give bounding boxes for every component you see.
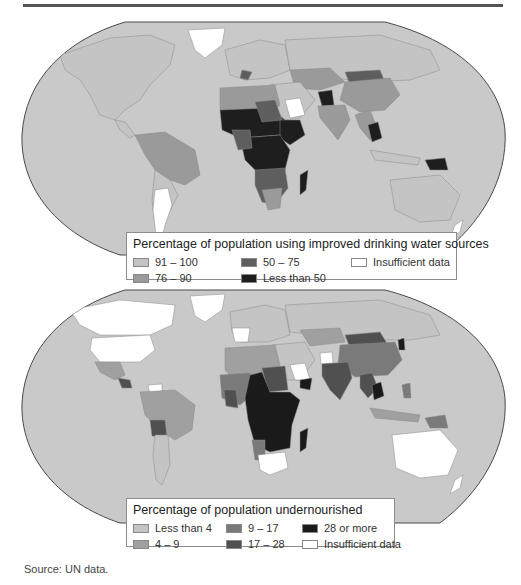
- swatch: [133, 540, 149, 549]
- legend-drinking-water: Percentage of population using improved …: [126, 232, 457, 280]
- legend-undernourished: Percentage of population undernourished …: [126, 498, 395, 547]
- legend-title: Percentage of population using improved …: [133, 237, 450, 252]
- swatch: [302, 540, 318, 549]
- legend-item-insufficient-data: Insufficient data: [302, 536, 402, 552]
- legend-item-28-or-more: 28 or more: [302, 520, 402, 536]
- legend-item-insufficient-data: Insufficient data: [351, 254, 461, 270]
- source-note: Source: UN data.: [24, 563, 108, 575]
- legend-item-4-9: 4 – 9: [133, 536, 226, 552]
- legend-item-17-28: 17 – 28: [226, 536, 302, 552]
- swatch: [241, 258, 257, 267]
- legend-item-9-17: 9 – 17: [226, 520, 302, 536]
- swatch: [302, 524, 318, 533]
- legend-title: Percentage of population undernourished: [133, 503, 388, 518]
- swatch: [133, 524, 149, 533]
- swatch: [226, 524, 242, 533]
- swatch: [133, 258, 149, 267]
- legend-item-less-than-4: Less than 4: [133, 520, 226, 536]
- swatch: [226, 540, 242, 549]
- swatch: [351, 258, 367, 267]
- top-rule: [23, 4, 503, 7]
- legend-item-50-75: 50 – 75: [241, 254, 351, 270]
- legend-item-91-100: 91 – 100: [133, 254, 241, 270]
